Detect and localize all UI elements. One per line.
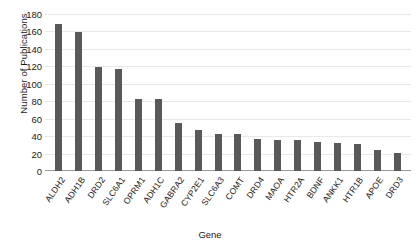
y-axis-title: Number of Publications: [18, 0, 29, 149]
x-tick-label: DRD3: [383, 175, 405, 200]
y-tick-label: 0: [6, 166, 42, 177]
x-tick-slot: DRD4: [248, 171, 268, 231]
x-tick-slot: COMT: [228, 171, 248, 231]
y-tick-label: 100: [6, 78, 42, 89]
y-tick-label: 120: [6, 61, 42, 72]
y-tick-label: 140: [6, 43, 42, 54]
y-tick-label: 80: [6, 96, 42, 107]
y-tick-label: 20: [6, 148, 42, 159]
y-tick-label: 160: [6, 26, 42, 37]
y-axis-ticks: 020406080100120140160180: [45, 14, 411, 171]
publications-by-gene-bar-chart: Number of Publications 02040608010012014…: [0, 0, 420, 245]
x-axis-title: Gene: [0, 229, 420, 240]
x-tick-slot: APOE: [367, 171, 387, 231]
x-tick-slot: ADH1B: [69, 171, 89, 231]
x-tick-slot: DRD3: [387, 171, 407, 231]
x-tick-slot: HTR2A: [288, 171, 308, 231]
y-tick-label: 180: [6, 9, 42, 20]
x-tick-slot: HTR1B: [347, 171, 367, 231]
x-tick-label: DRD4: [244, 175, 266, 200]
y-tick-label: 60: [6, 113, 42, 124]
x-axis-ticks: ALDH2ADH1BDRD2SLC6A1OPRM1ADH1CGABRA2CYP2…: [45, 171, 411, 231]
x-tick-slot: SLC6A3: [208, 171, 228, 231]
y-tick-label: 40: [6, 131, 42, 142]
x-tick-label: APOE: [363, 175, 385, 201]
